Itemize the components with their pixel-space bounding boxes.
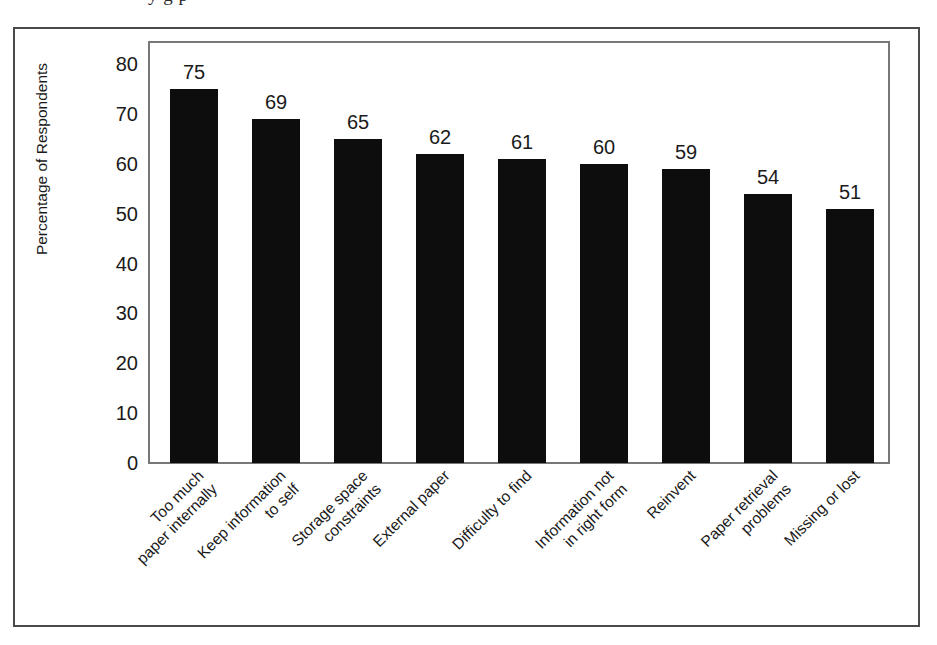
bar[interactable] (416, 154, 464, 463)
y-tick-label: 80 (94, 54, 138, 74)
y-tick-label: 10 (94, 403, 138, 423)
x-axis-label: Difficulty to find (359, 466, 535, 642)
y-tick-label: 70 (94, 104, 138, 124)
bar-value-label: 75 (154, 62, 234, 82)
y-tick-label: 50 (94, 204, 138, 224)
bar-slot: 51 (810, 43, 890, 463)
bar[interactable] (498, 159, 546, 463)
bar-slot: 62 (400, 43, 480, 463)
y-tick-label: 30 (94, 303, 138, 323)
bar-value-label: 61 (482, 132, 562, 152)
y-tick-label: 40 (94, 254, 138, 274)
y-tick-label: 20 (94, 353, 138, 373)
y-axis-title: Percentage of Respondents (33, 9, 51, 309)
bar-slot: 61 (482, 43, 562, 463)
bar-value-label: 54 (728, 167, 808, 187)
bar[interactable] (170, 89, 218, 463)
bar-value-label: 60 (564, 137, 644, 157)
bar[interactable] (252, 119, 300, 463)
bar-value-label: 69 (236, 92, 316, 112)
bar-value-label: 59 (646, 142, 726, 162)
bars-layer: 756965626160595451 (150, 43, 888, 463)
bar-value-label: 51 (810, 182, 890, 202)
bar[interactable] (826, 209, 874, 463)
y-tick-label: 0 (94, 453, 138, 473)
bar-slot: 60 (564, 43, 644, 463)
bar[interactable] (662, 169, 710, 463)
bar-slot: 69 (236, 43, 316, 463)
bar[interactable] (580, 164, 628, 463)
bar-slot: 54 (728, 43, 808, 463)
bar-slot: 65 (318, 43, 398, 463)
x-axis-category-labels: Too much paper internallyKeep informatio… (150, 466, 888, 636)
bar[interactable] (744, 194, 792, 463)
bar-slot: 59 (646, 43, 726, 463)
bar[interactable] (334, 139, 382, 463)
bar-value-label: 62 (400, 127, 480, 147)
bar-slot: 75 (154, 43, 234, 463)
bar-value-label: 65 (318, 112, 398, 132)
bar-chart: Percentage of Respondents 80706050403020… (0, 0, 937, 645)
y-tick-label: 60 (94, 154, 138, 174)
